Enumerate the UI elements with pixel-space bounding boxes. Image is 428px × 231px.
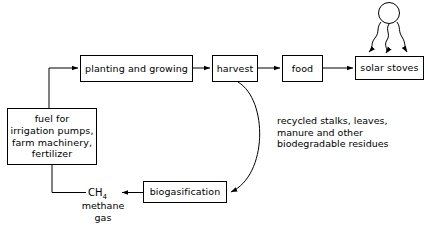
node-fuel-line-2: irrigation pumps, [8, 125, 96, 137]
node-planting-and-growing[interactable]: planting and growing [80, 55, 193, 82]
node-planting-label: planting and growing [85, 63, 188, 74]
label-methane-gas-line-2: gas [73, 212, 133, 224]
node-biogasification[interactable]: biogasification [143, 181, 227, 203]
node-fuel-line-4: fertilizer [8, 148, 96, 160]
node-harvest-label: harvest [217, 63, 254, 74]
node-fuel-line-1: fuel for [8, 113, 96, 125]
node-biogasification-label: biogasification [150, 186, 221, 197]
connector-fuel-to-planting [49, 68, 78, 108]
diagram-canvas: planting and growing harvest food solar … [0, 0, 428, 231]
label-recycled-line-1: recycled stalks, leaves, [277, 115, 388, 127]
label-recycled-residues: recycled stalks, leaves, manure and othe… [277, 115, 388, 150]
node-fuel-line-3: farm machinery, [8, 137, 96, 149]
label-recycled-line-3: biodegradable residues [277, 138, 388, 150]
connector-methane-to-fuel [52, 165, 86, 193]
sun-rays-icon [369, 22, 407, 53]
node-solar-stoves[interactable]: solar stoves [355, 56, 424, 80]
label-methane-gas-line-1: methane [73, 200, 133, 212]
node-food[interactable]: food [282, 55, 323, 82]
label-methane-formula-text: CH [88, 187, 103, 198]
node-food-label: food [292, 63, 313, 74]
label-recycled-line-2: manure and other [277, 127, 388, 139]
node-solar-stoves-label: solar stoves [360, 62, 418, 73]
node-fuel-for-irrigation[interactable]: fuel for irrigation pumps, farm machiner… [7, 108, 97, 165]
sun-icon [379, 3, 400, 24]
label-methane-gas: methane gas [73, 200, 133, 223]
node-harvest[interactable]: harvest [212, 55, 258, 82]
connector-harvest-to-biogasification [231, 82, 260, 192]
